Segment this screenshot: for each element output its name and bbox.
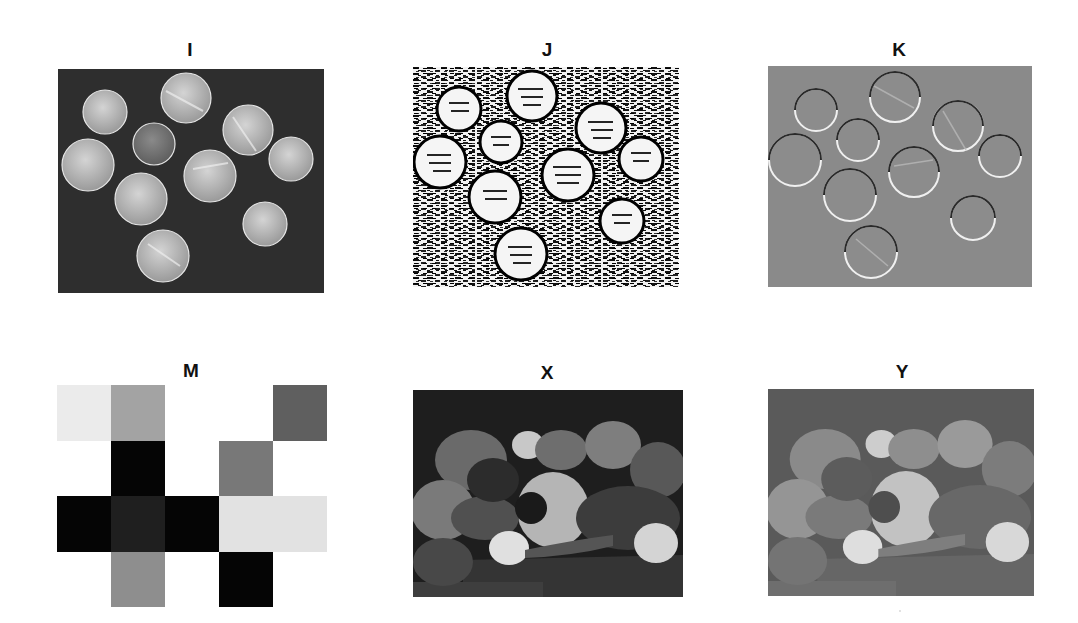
- matrix-cell-r1-c0: [57, 441, 111, 497]
- emboss-coins-image: [768, 66, 1032, 287]
- matrix-cell-r2-c0: [57, 496, 111, 552]
- matrix-cell-r2-c4: [273, 496, 327, 552]
- matrix-cell-r1-c4: [273, 441, 327, 497]
- peppers-image: [413, 390, 683, 597]
- matrix-cell-r0-c0: [57, 385, 111, 441]
- panel-title-Y: Y: [896, 362, 909, 381]
- matrix-cell-r3-c2: [165, 552, 219, 608]
- matrix-M-grid: [57, 385, 327, 607]
- peppers-low-contrast-image: [768, 389, 1034, 596]
- image-panel-X-peppers: [413, 390, 683, 597]
- image-artifact-dot: [899, 610, 901, 612]
- matrix-cell-r2-c3: [219, 496, 273, 552]
- matrix-cell-r3-c3: [219, 552, 273, 608]
- panel-title-K: K: [892, 40, 906, 59]
- matrix-cell-r1-c1: [111, 441, 165, 497]
- matrix-cell-r1-c2: [165, 441, 219, 497]
- matrix-cell-r3-c0: [57, 552, 111, 608]
- matrix-cell-r1-c3: [219, 441, 273, 497]
- image-panel-K-emboss-coins: [768, 66, 1032, 287]
- matrix-cell-r0-c3: [219, 385, 273, 441]
- matrix-cell-r0-c4: [273, 385, 327, 441]
- image-panel-Y-peppers: [768, 389, 1034, 596]
- edge-coins-image: [413, 67, 679, 287]
- image-panel-I-coins: [58, 69, 324, 293]
- matrix-cell-r0-c1: [111, 385, 165, 441]
- panel-title-J: J: [542, 40, 553, 59]
- matrix-cell-r2-c2: [165, 496, 219, 552]
- image-panel-J-edge-coins: [413, 67, 679, 287]
- matrix-cell-r2-c1: [111, 496, 165, 552]
- panel-title-I: I: [187, 40, 192, 59]
- panel-title-X: X: [541, 363, 554, 382]
- coins-image: [58, 69, 324, 293]
- panel-title-M: M: [183, 361, 199, 380]
- matrix-cell-r0-c2: [165, 385, 219, 441]
- matrix-cell-r3-c1: [111, 552, 165, 608]
- matrix-cell-r3-c4: [273, 552, 327, 608]
